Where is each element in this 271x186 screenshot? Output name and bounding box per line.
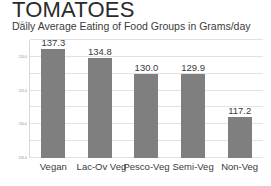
x-axis-category-label: Non-Veg [216,161,263,173]
bar[interactable] [41,49,65,158]
bar[interactable] [181,74,205,158]
y-axis-tick-label: 125.0 [19,21,28,25]
x-axis-category-label: Semi-Veg [170,161,217,173]
bar-slot: 117.2 [216,40,263,158]
bar-slot: 134.8 [77,40,124,158]
x-axis-category-labels: VeganLac-Ov VegPesco-VegSemi-VegNon-Veg [30,161,263,177]
bar[interactable] [228,117,252,158]
bar[interactable] [134,74,158,158]
y-axis-tick-label: 120.0 [19,55,28,59]
bars-layer: 137.3134.8130.0129.9117.2 [30,40,263,158]
bar-slot: 137.3 [30,40,77,158]
bar-value-label: 117.2 [228,105,251,116]
bar-slot: 129.9 [170,40,217,158]
x-axis-category-label: Pesco-Veg [123,161,170,173]
y-axis-tick-label: 110.0 [19,122,27,126]
y-axis-tick-label: 105.0 [19,156,28,160]
chart-title: TOMATOES [12,0,135,21]
y-axis-tick-label: 115.0 [19,89,27,93]
bar-value-label: 129.9 [181,62,205,73]
chart-subtitle: Daily Average Eating of Food Groups in G… [12,20,251,33]
bar[interactable] [88,58,112,158]
x-axis-category-label: Lac-Ov Veg [77,161,124,173]
x-axis-category-label: Vegan [30,161,77,173]
bar-value-label: 134.8 [88,46,112,57]
bar-slot: 130.0 [123,40,170,158]
chart-container: TOMATOES Daily Average Eating of Food Gr… [0,0,271,186]
bar-value-label: 137.3 [41,37,65,48]
bar-value-label: 130.0 [135,62,159,73]
